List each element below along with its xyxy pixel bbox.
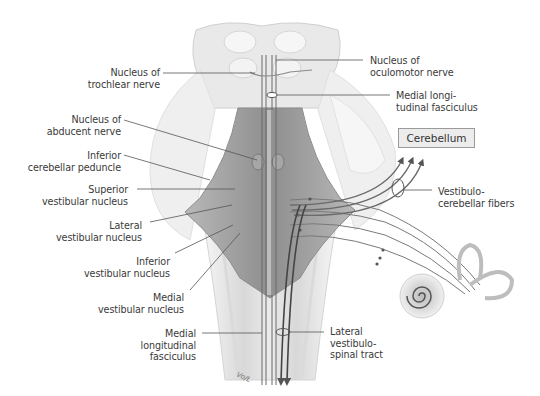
- anatomy-diagram: Vo/L Nucleus of trochlear nerve Nucleus …: [0, 0, 540, 396]
- label-medial-vestibular-nucleus: Medial vestibular nucleus: [98, 292, 184, 315]
- label-abducent-nucleus: Nucleus of abducent nerve: [47, 114, 121, 137]
- label-trochlear-nucleus: Nucleus of trochlear nerve: [88, 67, 160, 90]
- label-superior-vestibular-nucleus: Superior vestibular nucleus: [42, 184, 128, 207]
- mlf-marker-top: [267, 93, 277, 98]
- label-medial-longitudinal-fasciculus-top: Medial longi- tudinal fasciculus: [396, 90, 478, 113]
- abducent-nucleus-right: [272, 154, 284, 170]
- label-inferior-cerebellar-peduncle: Inferior cerebellar peduncle: [28, 150, 121, 173]
- label-oculomotor-nucleus: Nucleus of oculomotor nerve: [370, 55, 454, 78]
- label-lateral-vestibular-nucleus: Lateral vestibular nucleus: [56, 220, 142, 243]
- inner-ear: [400, 245, 512, 318]
- label-vestibulocerebellar-fibers: Vestibulo- cerebellar fibers: [438, 186, 514, 209]
- label-inferior-vestibular-nucleus: Inferior vestibular nucleus: [84, 256, 170, 279]
- label-lateral-vestibulospinal-tract: Lateral vestibulo- spinal tract: [330, 326, 383, 361]
- label-medial-longitudinal-fasciculus-bottom: Medial longitudinal fasciculus: [141, 328, 196, 363]
- cerebellum-box: Cerebellum: [398, 128, 475, 148]
